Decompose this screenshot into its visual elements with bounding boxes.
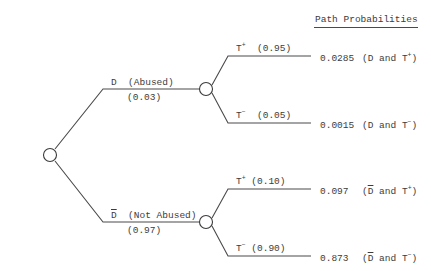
test-positive-label-not-abused: T+ (0.10) xyxy=(236,176,286,188)
symbol-d-bar: D xyxy=(111,210,117,221)
branch-label-abused: D (Abused) xyxy=(111,77,174,88)
abused-text: (Abused) xyxy=(128,77,174,88)
test-negative-label-not-abused: T− (0.90) xyxy=(236,243,286,255)
path-label-notd-tminus: (D and T−) xyxy=(362,253,417,265)
probability-tree xyxy=(0,0,431,271)
symbol-d: D xyxy=(111,77,117,88)
path-label-d-tminus: (D and T−) xyxy=(362,120,417,132)
path-probability-notd-tplus: 0.097 xyxy=(320,186,349,197)
branch-line-d-tplus xyxy=(212,56,311,85)
header-underline xyxy=(314,27,418,28)
root-chance-node xyxy=(44,149,57,162)
path-label-d-tplus: (D and T+) xyxy=(362,53,417,65)
path-probability-notd-tminus: 0.873 xyxy=(320,253,349,264)
path-label-notd-tplus: (D and T+) xyxy=(362,186,417,198)
path-probabilities-header: Path Probabilities xyxy=(315,14,418,25)
branch-line-notd-tplus xyxy=(212,189,311,218)
branch-label-not-abused: D (Not Abused) xyxy=(111,210,197,221)
chance-node-not-abused xyxy=(200,216,213,229)
test-negative-label-abused: T− (0.05) xyxy=(236,110,291,122)
branch-probability-abused: (0.03) xyxy=(127,92,161,103)
chance-node-abused xyxy=(200,83,213,96)
branch-probability-not-abused: (0.97) xyxy=(127,225,161,236)
path-probability-d-tplus: 0.0285 xyxy=(320,53,354,64)
test-positive-label-abused: T+ (0.95) xyxy=(236,43,291,55)
not-abused-text: (Not Abused) xyxy=(128,210,196,221)
path-probability-d-tminus: 0.0015 xyxy=(320,120,354,131)
